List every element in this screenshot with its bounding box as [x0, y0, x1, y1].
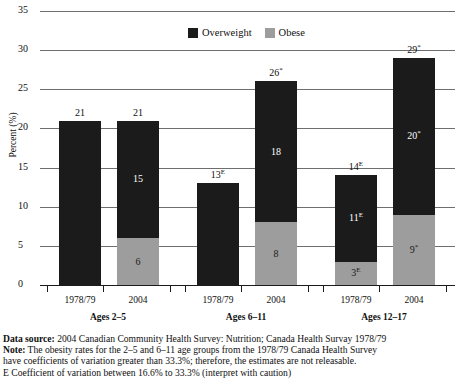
legend-item-overweight: Overweight	[188, 27, 252, 38]
x-tick-label: 2004	[379, 295, 449, 306]
bar-segment-overweight-value: 15	[117, 174, 159, 184]
bar-total-value: 26*	[255, 68, 297, 78]
bar-segment-obese-value: 3E	[335, 268, 377, 278]
bar-total-value: 21	[59, 108, 101, 118]
bar: 61521	[117, 121, 159, 285]
x-axis-tickmark	[103, 286, 104, 292]
x-axis-tickmark	[323, 286, 324, 292]
footnotes-block: Data source: 2004 Canadian Community Hea…	[3, 333, 465, 378]
bar-total-value: 21	[117, 108, 159, 118]
chart-container: Percent (%) 05101520253035 216152113E818…	[0, 0, 466, 300]
x-axis-tickmark	[446, 286, 447, 292]
footnote-e-definition: E Coefficient of variation between 16.6%…	[3, 367, 465, 378]
bar: 9*20*29*	[393, 58, 435, 285]
bar: 13E	[197, 183, 239, 285]
group-label: Ages 12–17	[324, 312, 444, 323]
y-tick-label-35: 35	[18, 5, 36, 15]
legend-swatch-obese-icon	[265, 28, 275, 38]
bar-segment-overweight	[197, 183, 239, 285]
footnote-note-line1: Note: The obesity rates for the 2–5 and …	[3, 344, 465, 355]
footnote-note-line2: have coefficients of variation greater t…	[3, 355, 465, 366]
legend-label-overweight: Overweight	[202, 27, 252, 38]
x-axis-tickmark	[185, 286, 186, 292]
legend-swatch-overweight-icon	[188, 28, 198, 38]
y-tick-label-20: 20	[18, 122, 36, 132]
x-axis-tickmark	[47, 286, 48, 292]
legend-item-obese: Obese	[265, 27, 305, 38]
x-tick-label: 2004	[241, 295, 311, 306]
x-tick-label: 2004	[103, 295, 173, 306]
y-axis-title: Percent (%)	[8, 95, 18, 175]
y-tick-label-5: 5	[18, 240, 36, 250]
y-tick-label-15: 15	[18, 162, 36, 172]
group-label: Ages 2–5	[48, 312, 168, 323]
footnote-data-source: Data source: 2004 Canadian Community Hea…	[3, 333, 465, 344]
bar-segment-overweight-value: 11E	[335, 213, 377, 223]
y-tick-label-30: 30	[18, 44, 36, 54]
footnote-data-source-label: Data source:	[3, 333, 55, 344]
x-axis-tickmark	[170, 286, 171, 292]
footnote-note-text: The obesity rates for the 2–5 and 6–11 a…	[25, 344, 377, 355]
legend-label-obese: Obese	[279, 27, 305, 38]
y-tick-label-25: 25	[18, 83, 36, 93]
bar-segment-overweight	[59, 121, 101, 285]
bar-segment-obese-value: 8	[255, 249, 297, 259]
footnote-note-label: Note:	[3, 344, 25, 355]
bar-segment-obese-value: 9*	[393, 245, 435, 255]
bar-total-value: 13E	[197, 170, 239, 180]
bar: 21	[59, 121, 101, 285]
bar-segment-overweight-value: 18	[255, 147, 297, 157]
bar-segment-obese-value: 6	[117, 257, 159, 267]
x-axis-tickmark	[379, 286, 380, 292]
y-tick-label-10: 10	[18, 201, 36, 211]
bar-total-value: 29*	[393, 45, 435, 55]
chart-legend: Overweight Obese	[188, 27, 313, 38]
bar: 3E11E14E	[335, 175, 377, 285]
x-axis-tickmark	[241, 286, 242, 292]
group-label: Ages 6–11	[186, 312, 306, 323]
footnote-data-source-text: 2004 Canadian Community Health Survey: N…	[55, 333, 386, 344]
bar-segment-overweight-value: 20*	[393, 131, 435, 141]
bar: 81826*	[255, 81, 297, 285]
y-tick-label-0: 0	[18, 279, 36, 289]
bar-total-value: 14E	[335, 162, 377, 172]
plot-area: 216152113E81826*3E11E14E9*20*29*	[40, 11, 455, 285]
x-axis-tickmark	[308, 286, 309, 292]
